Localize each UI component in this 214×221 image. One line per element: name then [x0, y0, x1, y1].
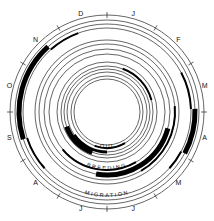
month-label: A: [33, 179, 38, 186]
month-label: J: [131, 205, 135, 212]
month-tick: [20, 62, 25, 65]
month-tick: [188, 159, 193, 162]
ring-label-breeding: BREEDING: [86, 162, 127, 171]
month-label: O: [7, 82, 13, 89]
month-label: S: [7, 134, 12, 141]
activity-arc-migration: [19, 47, 48, 140]
month-label: M: [175, 179, 181, 186]
month-label: J: [79, 205, 83, 212]
month-tick: [57, 25, 60, 30]
month-tick: [154, 25, 157, 30]
month-tick: [20, 159, 25, 162]
month-label: D: [78, 10, 83, 17]
month-label: M: [202, 82, 208, 89]
annual-cycle-diagram: JFMAMJJASONDMIGRATIONBREEDINGMOULT: [0, 0, 214, 221]
guide-ring: [71, 76, 143, 148]
activity-arc-migration: [185, 109, 195, 153]
activity-arc-migration: [169, 151, 181, 168]
month-label: F: [176, 36, 180, 43]
month-label: A: [202, 134, 207, 141]
month-tick: [188, 62, 193, 65]
month-tick: [154, 193, 157, 198]
cycle-chart: JFMAMJJASONDMIGRATIONBREEDINGMOULT: [0, 0, 214, 221]
month-label: N: [33, 36, 38, 43]
month-tick: [57, 193, 60, 198]
guide-ring: [74, 79, 140, 145]
activity-arc-moult: [123, 69, 152, 100]
ring-label-migration: MIGRATION: [84, 189, 129, 198]
month-label: J: [131, 10, 135, 17]
activity-arc-migration: [181, 73, 191, 110]
guide-ring: [35, 40, 179, 184]
